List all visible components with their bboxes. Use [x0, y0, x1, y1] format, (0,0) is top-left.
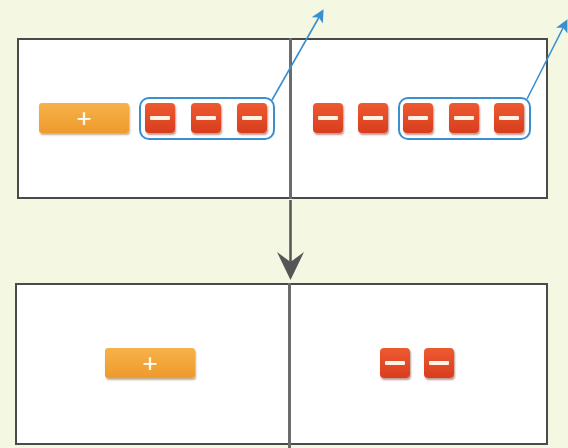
arrows-overlay	[0, 0, 568, 448]
right-removal-arrow	[527, 22, 566, 99]
left-removal-arrow	[272, 12, 322, 100]
